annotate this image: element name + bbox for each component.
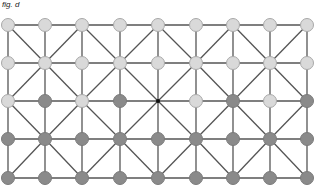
edge-diagonal: [196, 139, 233, 178]
dark-node: [190, 172, 203, 185]
edge-diagonal: [8, 63, 45, 101]
light-node: [190, 19, 203, 32]
edge-diagonal: [120, 139, 158, 178]
light-node: [227, 19, 240, 32]
light-node: [39, 19, 52, 32]
edge-diagonal: [233, 63, 270, 101]
dark-node: [190, 133, 203, 146]
dark-node: [301, 95, 314, 108]
dark-node: [264, 133, 277, 146]
light-node: [2, 57, 15, 70]
dark-node: [227, 133, 240, 146]
light-node: [2, 95, 15, 108]
light-node: [264, 19, 277, 32]
light-node: [114, 19, 127, 32]
edge-diagonal: [158, 139, 196, 178]
dark-node: [152, 133, 165, 146]
dark-node: [39, 133, 52, 146]
edge-diagonal: [158, 101, 196, 139]
dark-node: [227, 172, 240, 185]
light-node: [152, 57, 165, 70]
edge-diagonal: [233, 25, 270, 63]
light-node: [76, 95, 89, 108]
edge-diagonal: [158, 25, 196, 63]
edge-diagonal: [233, 101, 270, 139]
dark-node: [39, 172, 52, 185]
edge-diagonal: [82, 63, 120, 101]
dark-node: [114, 95, 127, 108]
edge-diagonal: [196, 101, 233, 139]
edge-diagonal: [45, 101, 82, 139]
edge-diagonal: [45, 139, 82, 178]
dark-node: [2, 172, 15, 185]
edge-diagonal: [196, 63, 233, 101]
edge-diagonal: [270, 139, 307, 178]
dark-node: [114, 172, 127, 185]
light-node: [227, 57, 240, 70]
edge-diagonal: [158, 63, 196, 101]
light-node: [76, 19, 89, 32]
edge-diagonal: [270, 63, 307, 101]
dark-node: [76, 133, 89, 146]
edge-diagonal: [196, 25, 233, 63]
edge-diagonal: [270, 101, 307, 139]
edge-diagonal: [120, 63, 158, 101]
light-node: [264, 57, 277, 70]
light-node: [190, 57, 203, 70]
dark-node: [2, 133, 15, 146]
light-node: [114, 57, 127, 70]
edge-diagonal: [120, 25, 158, 63]
edge-diagonal: [8, 101, 45, 139]
edge-diagonal: [45, 63, 82, 101]
edge-diagonal: [45, 25, 82, 63]
edge-diagonal: [8, 139, 45, 178]
dark-node: [264, 172, 277, 185]
light-node: [76, 57, 89, 70]
edge-diagonal: [8, 25, 45, 63]
dark-node: [76, 172, 89, 185]
empty-junction: [156, 99, 160, 103]
dark-node: [227, 95, 240, 108]
light-node: [301, 19, 314, 32]
edge-diagonal: [82, 139, 120, 178]
light-node: [2, 19, 15, 32]
dark-node: [301, 172, 314, 185]
light-node: [264, 95, 277, 108]
edge-diagonal: [82, 101, 120, 139]
light-node: [190, 95, 203, 108]
dark-node: [301, 133, 314, 146]
edge-diagonal: [120, 101, 158, 139]
edge-diagonal: [270, 25, 307, 63]
light-node: [152, 19, 165, 32]
lattice-diagram: [0, 0, 314, 187]
dark-node: [39, 95, 52, 108]
light-node: [39, 57, 52, 70]
light-node: [301, 57, 314, 70]
edge-diagonal: [82, 25, 120, 63]
dark-node: [152, 172, 165, 185]
dark-node: [114, 133, 127, 146]
edge-diagonal: [233, 139, 270, 178]
